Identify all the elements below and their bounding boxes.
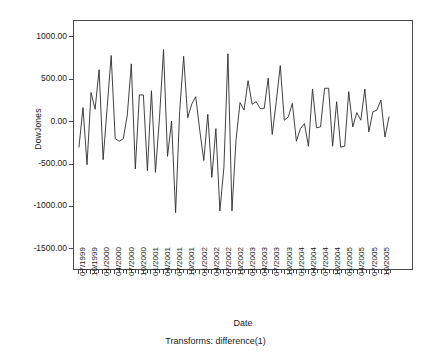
x-minor-tick [264, 270, 265, 273]
x-minor-tick [362, 270, 363, 273]
x-minor-tick [349, 270, 350, 273]
x-minor-tick [106, 270, 107, 273]
y-tick-label: 1000.00 [36, 31, 67, 41]
y-tick-label: 0.00 [50, 116, 67, 126]
x-minor-tick [244, 270, 245, 273]
x-minor-tick [232, 270, 233, 273]
x-minor-tick [276, 270, 277, 273]
x-minor-tick [216, 270, 217, 273]
x-minor-tick [390, 270, 391, 273]
x-minor-tick [341, 270, 342, 273]
x-minor-tick [386, 270, 387, 273]
x-minor-tick [131, 270, 132, 273]
x-minor-tick [119, 270, 120, 273]
x-minor-tick [147, 270, 148, 273]
x-minor-tick [179, 270, 180, 273]
x-minor-tick [191, 270, 192, 273]
x-minor-tick [313, 270, 314, 273]
x-axis-title: Date [73, 318, 413, 328]
y-tick-label: -500.00 [38, 158, 67, 168]
x-minor-tick [123, 270, 124, 273]
x-minor-tick [208, 270, 209, 273]
x-minor-tick [374, 270, 375, 273]
x-minor-tick [220, 270, 221, 273]
x-minor-tick [155, 270, 156, 273]
x-minor-tick [325, 270, 326, 273]
x-minor-tick [94, 270, 95, 273]
x-minor-tick [195, 270, 196, 273]
x-minor-tick [204, 270, 205, 273]
x-minor-tick [293, 270, 294, 273]
x-minor-tick [305, 270, 306, 273]
x-minor-tick [240, 270, 241, 273]
x-minor-tick [378, 270, 379, 273]
x-minor-tick [301, 270, 302, 273]
x-minor-tick [135, 270, 136, 273]
x-minor-tick [252, 270, 253, 273]
plot-area [73, 20, 413, 270]
y-axis-title: DowJones [33, 69, 43, 189]
x-minor-tick [167, 270, 168, 273]
y-tick-label: 500.00 [41, 73, 67, 83]
y-tick-label: -1500.00 [33, 243, 67, 253]
x-minor-tick [268, 270, 269, 273]
x-minor-tick [281, 270, 282, 273]
y-tick-label: -1000.00 [33, 200, 67, 210]
x-minor-tick [143, 270, 144, 273]
x-minor-tick [183, 270, 184, 273]
x-minor-tick [256, 270, 257, 273]
x-minor-tick [110, 270, 111, 273]
x-minor-tick [86, 270, 87, 273]
x-minor-tick [289, 270, 290, 273]
chart-footnote: Transforms: difference(1) [0, 336, 431, 346]
x-minor-tick [317, 270, 318, 273]
x-minor-tick [98, 270, 99, 273]
x-minor-tick [82, 270, 83, 273]
x-minor-tick [159, 270, 160, 273]
x-minor-tick [353, 270, 354, 273]
x-minor-tick [171, 270, 172, 273]
x-minor-tick [228, 270, 229, 273]
x-minor-tick [329, 270, 330, 273]
y-axis: DowJones 1000.00500.000.00-500.00-1000.0… [0, 20, 73, 270]
x-minor-tick [366, 270, 367, 273]
x-minor-tick [337, 270, 338, 273]
chart-figure: DowJones 1000.00500.000.00-500.00-1000.0… [0, 0, 431, 357]
series-line-dowjones [74, 21, 412, 269]
